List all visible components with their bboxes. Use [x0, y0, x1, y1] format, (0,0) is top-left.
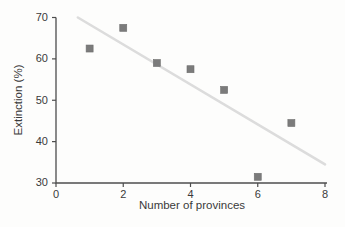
data-point [221, 86, 228, 93]
y-tick-label: 60 [36, 52, 48, 64]
x-tick-label: 6 [255, 188, 261, 200]
plot-area: 024683040506070 [36, 11, 328, 200]
x-tick-label: 2 [120, 188, 126, 200]
y-tick-label: 40 [36, 135, 48, 147]
data-point [254, 173, 261, 180]
scatter-plot: 024683040506070 Extinction (%) Number of… [0, 0, 345, 227]
axes-spine [56, 18, 327, 184]
trend-line [78, 18, 325, 165]
y-tick-label: 30 [36, 176, 48, 188]
data-point [86, 45, 93, 52]
y-tick-label: 70 [36, 11, 48, 23]
x-tick-label: 4 [187, 188, 193, 200]
data-point [288, 120, 295, 127]
data-point [187, 66, 194, 73]
scatter-chart-figure: 024683040506070 Extinction (%) Number of… [0, 0, 345, 227]
y-axis-title: Extinction (%) [12, 64, 24, 135]
x-axis-title: Number of provinces [139, 199, 245, 211]
data-point [120, 24, 127, 31]
x-tick-label: 0 [53, 188, 59, 200]
x-tick-label: 8 [322, 188, 328, 200]
data-point [153, 60, 160, 67]
y-tick-label: 50 [36, 94, 48, 106]
